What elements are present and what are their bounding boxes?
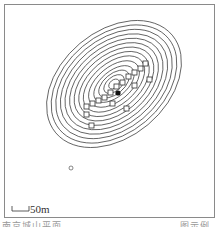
isolated-ring-icon [69, 166, 73, 170]
contour-map [0, 0, 223, 227]
scale-bar-label: 50m [30, 203, 50, 215]
scale-bar [12, 206, 29, 211]
summit-point-icon [115, 90, 120, 95]
figure-caption: 南京城山平面 [2, 219, 62, 227]
figure-caption-right: 图示例 [180, 219, 210, 227]
